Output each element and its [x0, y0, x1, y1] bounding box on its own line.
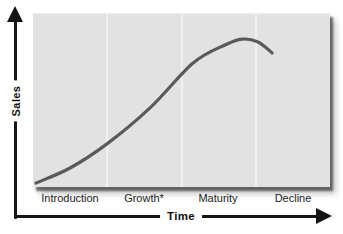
- phase-label-decline: Decline: [255, 192, 331, 204]
- y-axis-label: Sales: [10, 81, 22, 122]
- product-lifecycle-chart: Sales Introduction Growth* Maturity Decl…: [0, 0, 343, 234]
- plot-area: [33, 13, 330, 187]
- phase-label-maturity: Maturity: [180, 192, 256, 204]
- up-arrowhead-icon: [7, 6, 23, 22]
- x-axis-label: Time: [160, 210, 202, 222]
- right-arrowhead-icon: [316, 208, 332, 224]
- phase-label-introduction: Introduction: [32, 192, 108, 204]
- phase-label-growth: Growth*: [106, 192, 182, 204]
- sales-curve: [33, 14, 330, 187]
